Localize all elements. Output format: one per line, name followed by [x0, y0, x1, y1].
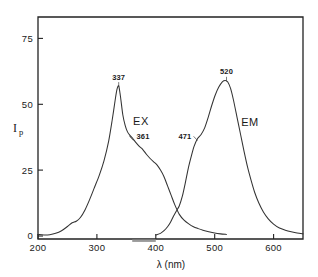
shoulder-label-ex-361: 361	[137, 132, 150, 141]
peak-label-ex-337: 337	[112, 73, 125, 82]
x-tick-label-500: 500	[206, 242, 223, 253]
y-tick-label-0: 0	[27, 230, 33, 241]
excitation-spectrum-curve	[38, 86, 226, 235]
plot-frame	[38, 17, 303, 239]
x-axis-title: λ (nm)	[157, 259, 185, 270]
x-tick-label-600: 600	[265, 242, 282, 253]
y-axis-title-sub: p	[19, 127, 23, 137]
series-label-em: EM	[241, 116, 259, 128]
x-tick-label-400: 400	[147, 242, 164, 253]
shoulder-label-em-471: 471	[178, 132, 191, 141]
y-axis-title: I p	[13, 121, 23, 137]
y-tick-label-25: 25	[22, 165, 33, 176]
x-tick-label-200: 200	[30, 242, 47, 253]
spectra-chart-canvas: 75 50 25 0 I p 200 300 400 500 600 λ (nm…	[0, 0, 318, 277]
y-tick-label-50: 50	[22, 99, 33, 110]
peak-label-em-520: 520	[220, 67, 233, 76]
spectra-figure: 75 50 25 0 I p 200 300 400 500 600 λ (nm…	[0, 0, 318, 277]
y-axis-title-main: I	[13, 121, 17, 135]
y-tick-label-75: 75	[22, 33, 33, 44]
series-label-ex: EX	[133, 115, 149, 127]
x-tick-label-300: 300	[89, 242, 106, 253]
leader-line-471	[194, 136, 198, 140]
y-axis-ticks	[38, 38, 43, 236]
